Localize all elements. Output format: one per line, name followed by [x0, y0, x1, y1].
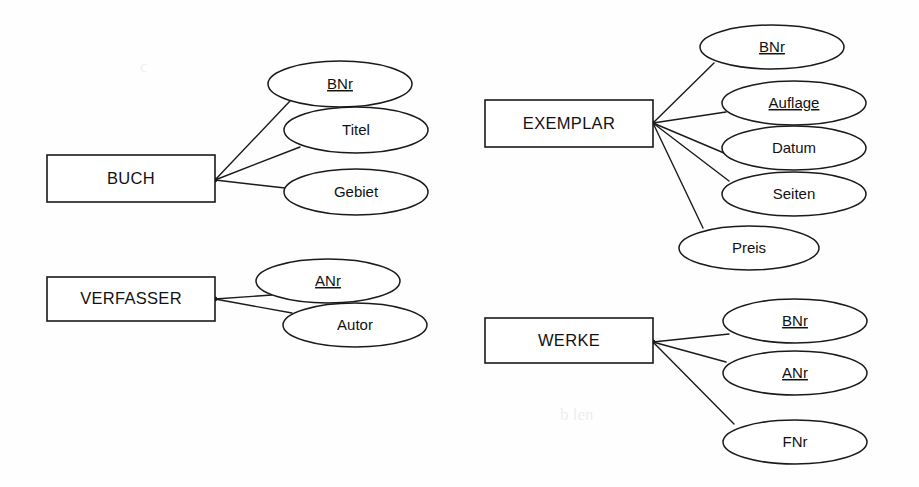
attribute-label-buch-gebiet: Gebiet: [334, 183, 379, 200]
attribute-label-werke-bnr: BNr: [782, 312, 808, 329]
connector-exemplar-seiten: [653, 123, 729, 181]
connector-buch-bnr: [215, 101, 290, 180]
entity-group-werke: WERKEBNrANrFNr: [485, 299, 867, 464]
connector-werke-fnr: [653, 342, 734, 424]
connector-exemplar-auflage: [653, 112, 726, 123]
entity-group-verfasser: VERFASSERANrAutor: [47, 259, 427, 347]
entity-label-buch: BUCH: [107, 169, 155, 187]
connector-exemplar-datum: [653, 123, 724, 153]
attribute-label-exemplar-auflage: Auflage: [769, 94, 820, 111]
connector-buch-gebiet: [215, 180, 285, 188]
connector-exemplar-bnr: [653, 63, 714, 123]
connector-exemplar-preis: [653, 123, 703, 228]
connector-verfasser-autor: [215, 299, 292, 313]
connector-werke-bnr: [653, 334, 729, 342]
attribute-label-verfasser-autor: Autor: [337, 316, 373, 333]
attribute-label-werke-anr: ANr: [782, 364, 808, 381]
entity-group-buch: BUCHBNrTitelGebiet: [47, 61, 428, 215]
connector-werke-anr: [653, 342, 726, 362]
entity-label-verfasser: VERFASSER: [80, 289, 182, 307]
connector-verfasser-anr: [215, 295, 272, 299]
connector-buch-titel: [215, 147, 300, 180]
attribute-label-verfasser-anr: ANr: [315, 272, 341, 289]
attribute-label-exemplar-seiten: Seiten: [773, 185, 816, 202]
attribute-label-exemplar-preis: Preis: [732, 239, 766, 256]
attribute-label-buch-bnr: BNr: [327, 75, 353, 92]
attribute-label-exemplar-datum: Datum: [772, 139, 816, 156]
entity-group-exemplar: EXEMPLARBNrAuflageDatumSeitenPreis: [485, 25, 866, 270]
attribute-label-buch-titel: Titel: [342, 121, 370, 138]
attribute-label-exemplar-bnr: BNr: [759, 38, 785, 55]
entity-label-exemplar: EXEMPLAR: [523, 114, 615, 132]
er-diagram-svg: BUCHBNrTitelGebietVERFASSERANrAutorEXEMP…: [0, 0, 919, 487]
attribute-label-werke-fnr: FNr: [783, 433, 808, 450]
entity-label-werke: WERKE: [538, 331, 600, 349]
er-diagram-canvas: a Cosila b len c BUCHBNrTitelGebietVERFA…: [0, 0, 919, 487]
